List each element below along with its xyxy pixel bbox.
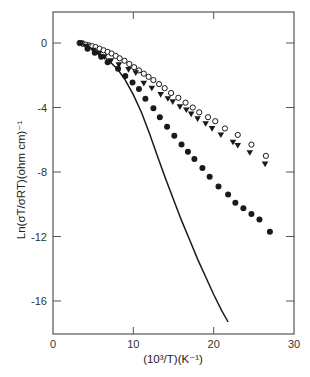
y-axis-title: Ln(σT/σRT)(ohm cm)⁻¹ (15, 121, 27, 240)
y-tick-label: -12 (31, 231, 47, 243)
x-axis-title: (10³/T)(K⁻¹) (143, 353, 203, 365)
triangle-marker (230, 140, 237, 146)
open-circle-marker (141, 71, 146, 76)
triangle-marker (157, 92, 164, 98)
open-circle-marker (197, 110, 202, 115)
open-circle-marker (176, 95, 181, 100)
triangle-marker (125, 67, 132, 73)
triangle-marker (234, 143, 241, 149)
filled-circle-marker (136, 86, 142, 92)
triangle-marker (194, 116, 201, 122)
triangle-marker (209, 126, 216, 132)
x-axis-tick-labels: 0102030 (50, 338, 300, 350)
filled-circle-marker (215, 184, 221, 190)
open-circle-marker (146, 74, 151, 79)
filled-circle-marker (240, 205, 246, 211)
filled-circle-marker (185, 149, 191, 155)
triangle-marker (218, 132, 225, 138)
open-circle-marker (162, 86, 167, 91)
open-circle-marker (222, 126, 227, 131)
triangle-marker (169, 99, 176, 105)
triangle-marker (177, 104, 184, 110)
y-axis-ticks (53, 43, 294, 301)
filled-circle-marker (248, 211, 254, 217)
chart: 0102030 0-4-8-12-16 (10³/T)(K⁻¹) Ln(σT/σ… (0, 0, 310, 377)
filled-circle-marker (157, 114, 163, 120)
x-axis-ticks (133, 12, 213, 334)
open-circle-marker (249, 142, 254, 147)
open-circle-marker (156, 82, 161, 87)
triangle-marker (262, 161, 269, 167)
filled-circle-marker (199, 165, 205, 171)
filled-circle-marker (142, 96, 148, 102)
triangle-marker (247, 150, 254, 156)
filled-circle-marker (179, 142, 185, 148)
x-tick-label: 20 (208, 338, 220, 350)
open-circle-marker (183, 100, 188, 105)
triangle-marker (188, 111, 195, 117)
open-circle-marker (122, 58, 127, 63)
filled-circle-marker (171, 133, 177, 139)
open-circle-marker (235, 132, 240, 137)
filled-circle-marker (164, 124, 170, 130)
triangle-marker (149, 86, 156, 92)
filled-circle-marker (130, 80, 136, 86)
open-circle-marker (205, 115, 210, 120)
x-tick-label: 30 (288, 338, 300, 350)
plot-frame (53, 12, 294, 334)
open-circle-marker (168, 90, 173, 95)
open-circle-marker (132, 65, 137, 70)
y-axis-tick-labels: 0-4-8-12-16 (31, 37, 47, 307)
filled-circle-marker (225, 192, 231, 198)
y-tick-label: -4 (37, 102, 47, 114)
open-circle-marker (190, 105, 195, 110)
filled-circle-marker (267, 229, 273, 235)
solid-curve (80, 43, 229, 322)
triangle-marker (202, 121, 209, 127)
series-line (80, 43, 229, 322)
filled-circle-marker (232, 200, 238, 206)
filled-circle-marker (207, 174, 213, 180)
open-circle-marker (263, 153, 268, 158)
y-tick-label: 0 (41, 37, 47, 49)
filled-circle-marker (150, 105, 156, 111)
triangle-marker (140, 81, 147, 87)
x-tick-label: 10 (127, 338, 139, 350)
open-circle-marker (213, 119, 218, 124)
y-tick-label: -16 (31, 295, 47, 307)
triangle-marker (165, 96, 172, 102)
y-tick-label: -8 (37, 166, 47, 178)
filled-circle-marker (256, 217, 262, 223)
series-layer (77, 40, 273, 322)
x-tick-label: 0 (50, 338, 56, 350)
open-circle-marker (151, 77, 156, 82)
filled-circle-marker (191, 156, 197, 162)
open-circle-marker (127, 61, 132, 66)
